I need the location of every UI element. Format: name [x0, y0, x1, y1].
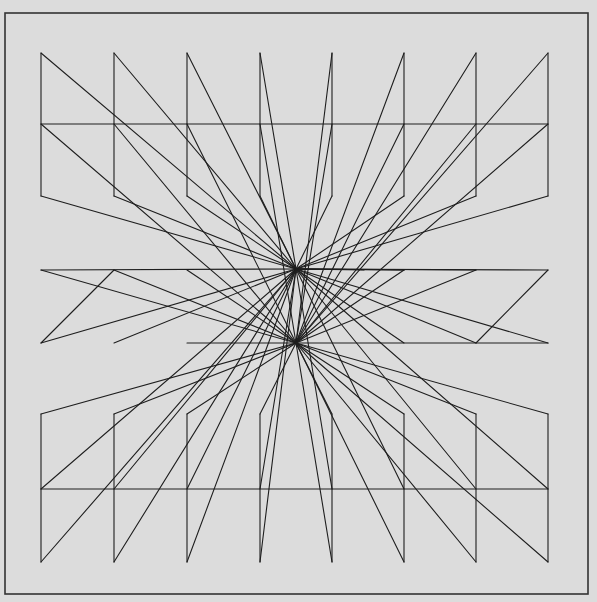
line-drawing [0, 0, 597, 602]
paper-background [0, 0, 597, 602]
